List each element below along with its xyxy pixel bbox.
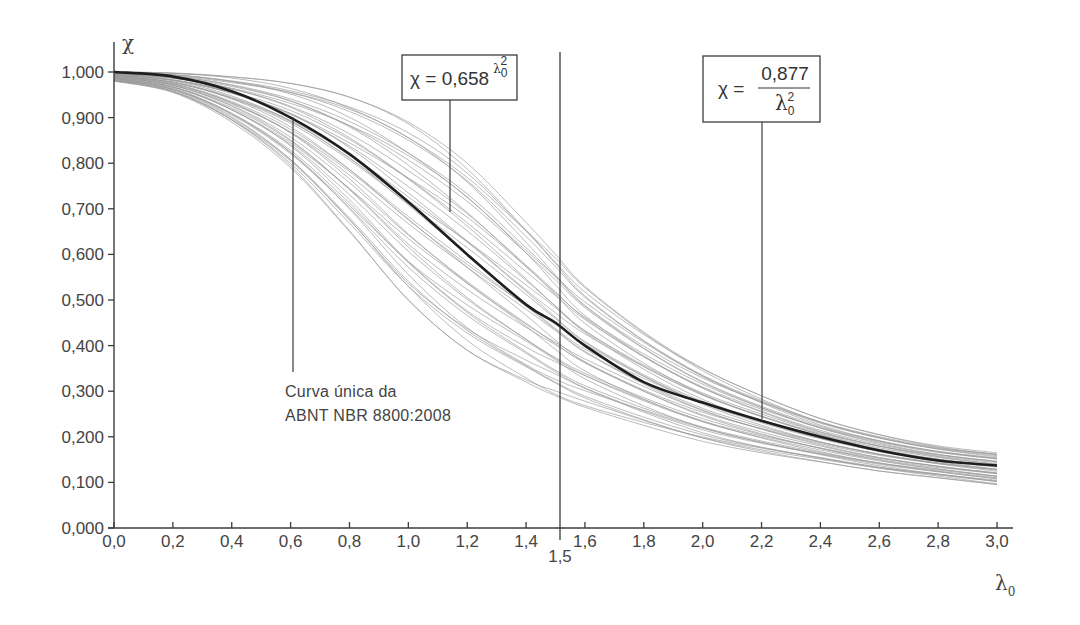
x-tick-label: 2,4: [809, 532, 833, 551]
test-curve: [114, 75, 997, 464]
main-curve-nbr8800: [114, 72, 997, 466]
test-curve: [114, 77, 997, 470]
y-tick-label: 0,600: [61, 245, 104, 264]
y-tick-label: 0,000: [61, 519, 104, 538]
x-tick-label: 0,6: [279, 532, 303, 551]
test-curve: [114, 79, 997, 478]
test-curve: [114, 76, 997, 466]
equation-box-elastic: χ = 0,877 λ02: [703, 56, 820, 122]
test-curve: [114, 74, 997, 458]
x-tick-label: 3,0: [985, 532, 1009, 551]
x-tick-label: 2,8: [926, 532, 950, 551]
y-tick-label: 0,100: [61, 473, 104, 492]
test-curve: [114, 76, 997, 466]
buckling-curve-chart: 1,5 0,0000,1000,2000,3000,4000,5000,6000…: [0, 0, 1080, 625]
test-curve: [114, 81, 997, 484]
x-tick-label: 1,0: [397, 532, 421, 551]
equation-box-inelastic: χ = 0,658λ02: [402, 54, 517, 100]
test-curve: [114, 79, 997, 477]
test-curve: [114, 75, 997, 462]
test-curve: [114, 77, 997, 470]
y-tick-label: 1,000: [61, 63, 104, 82]
curve-label-line2: ABNT NBR 8800:2008: [285, 407, 451, 424]
test-curve: [114, 81, 997, 485]
x-axis-title: λ0: [995, 571, 1015, 599]
y-tick-label: 0,800: [61, 154, 104, 173]
test-curve: [114, 80, 997, 481]
test-curve: [114, 76, 997, 467]
y-tick-label: 0,700: [61, 200, 104, 219]
test-curve: [114, 80, 997, 481]
x-tick-label: 0,4: [220, 532, 244, 551]
y-axis-title: χ: [122, 31, 134, 55]
test-curve: [114, 80, 997, 481]
x-tick-label: 2,0: [691, 532, 715, 551]
test-curve: [114, 73, 997, 456]
test-curve: [114, 81, 997, 485]
y-tick-label: 0,900: [61, 109, 104, 128]
y-tick-label: 0,300: [61, 382, 104, 401]
svg-text:λ02: λ02: [775, 90, 795, 118]
x-tick-label: 0,8: [338, 532, 362, 551]
y-tick-label: 0,500: [61, 291, 104, 310]
x-tick-label: 1,4: [514, 532, 538, 551]
x-tick-label: 0,0: [102, 532, 126, 551]
test-curve: [114, 75, 997, 464]
test-curve: [114, 76, 997, 467]
reference-label: 1,5: [548, 547, 572, 566]
y-axis: 0,0000,1000,2000,3000,4000,5000,6000,700…: [61, 42, 114, 538]
x-tick-label: 2,6: [867, 532, 891, 551]
y-tick-label: 0,200: [61, 428, 104, 447]
svg-text:χ =: χ =: [718, 78, 744, 99]
y-tick-label: 0,400: [61, 337, 104, 356]
x-tick-label: 1,8: [632, 532, 656, 551]
test-curve: [114, 79, 997, 477]
test-curve: [114, 76, 997, 469]
svg-text:0,877: 0,877: [761, 63, 809, 84]
test-curve: [114, 77, 997, 470]
test-curve: [114, 80, 997, 479]
x-tick-label: 1,6: [573, 532, 597, 551]
x-tick-label: 2,2: [750, 532, 774, 551]
x-tick-label: 1,2: [455, 532, 479, 551]
curve-label-line1: Curva única da: [285, 383, 397, 400]
test-curve: [114, 75, 997, 463]
x-tick-label: 0,2: [161, 532, 185, 551]
test-curve: [114, 73, 997, 458]
test-curve-band: [114, 72, 997, 485]
